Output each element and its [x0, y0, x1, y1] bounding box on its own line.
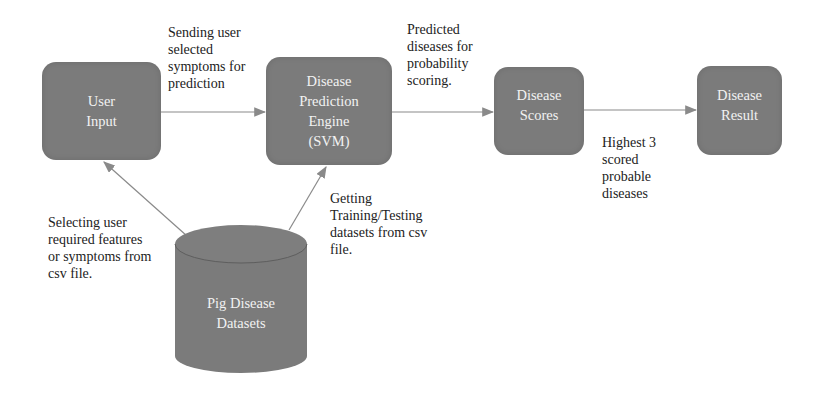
node-prediction-engine: Disease Prediction Engine (SVM)	[266, 57, 392, 165]
node-user-input: User Input	[42, 62, 161, 160]
node-disease-scores: Disease Scores	[494, 67, 584, 155]
edge-label-predicted: Predicted diseases for probability scori…	[407, 21, 473, 89]
diagram-canvas: User Input Disease Prediction Engine (SV…	[0, 0, 818, 396]
edge-datasets-to-engine	[289, 167, 326, 230]
edge-label-highest: Highest 3 scored probable diseases	[602, 134, 656, 202]
node-label: Disease Result	[717, 85, 762, 125]
node-label: User Input	[86, 91, 117, 131]
edge-label-sending: Sending user selected symptoms for predi…	[168, 24, 245, 92]
node-label: Disease Scores	[516, 85, 561, 125]
node-disease-result: Disease Result	[697, 66, 782, 155]
node-label: Disease Prediction Engine (SVM)	[299, 71, 359, 151]
edge-label-selecting: Selecting user required features or symp…	[48, 214, 151, 282]
node-datasets-label: Pig Disease Datasets	[175, 293, 307, 333]
edge-label-getting: Getting Training/Testing datasets from c…	[330, 190, 427, 258]
